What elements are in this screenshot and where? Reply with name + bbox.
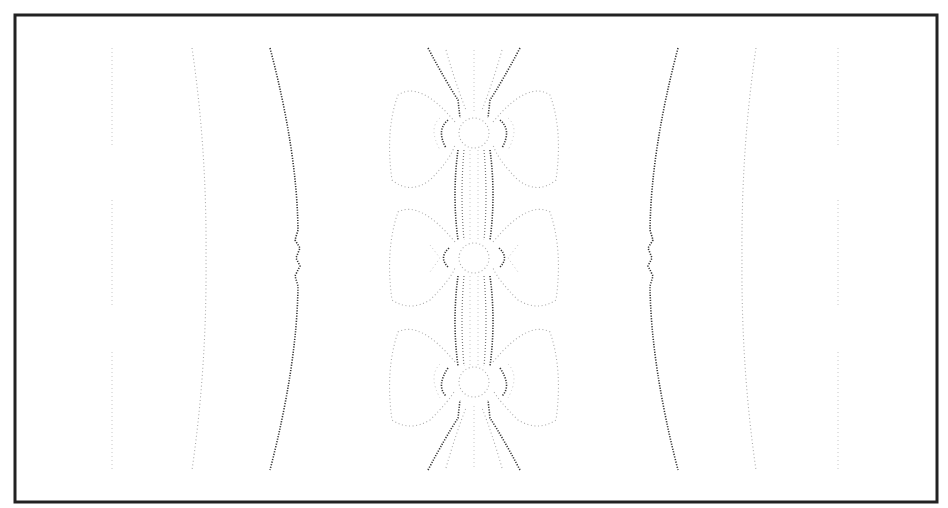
contour-plot	[0, 0, 948, 508]
central-contours	[390, 48, 559, 470]
left-outer-contours	[112, 48, 300, 470]
right-outer-contours	[648, 48, 838, 470]
plot-frame	[15, 15, 937, 502]
